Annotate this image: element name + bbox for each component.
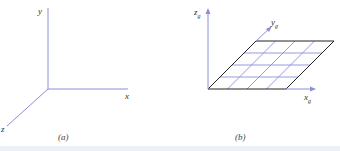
panel-a-axes xyxy=(7,8,128,126)
panel-b-grid xyxy=(208,41,334,89)
panel-a-caption: (a) xyxy=(58,132,69,142)
zg-axis-label: zg xyxy=(193,7,201,19)
z-axis xyxy=(7,89,48,126)
figure: y x z (a) zg yg xg (b) xyxy=(0,0,340,151)
x-axis-label: x xyxy=(124,91,129,101)
panel-b-axes xyxy=(206,8,317,92)
bottom-band xyxy=(0,146,340,151)
xg-axis-label: xg xyxy=(303,92,311,104)
xg-arrowhead-icon xyxy=(310,87,316,92)
panel-b-caption: (b) xyxy=(235,132,246,142)
zg-arrowhead-icon xyxy=(206,8,211,14)
z-axis-label: z xyxy=(0,124,5,134)
y-axis-label: y xyxy=(37,6,42,16)
